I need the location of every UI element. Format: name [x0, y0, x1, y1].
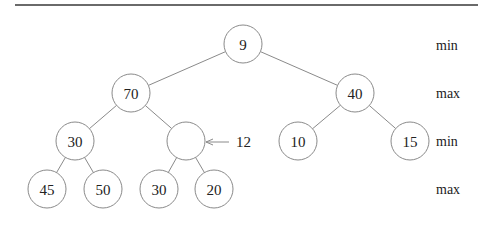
heap-node: 20: [195, 170, 233, 208]
node-value: 10: [291, 134, 306, 150]
tree-edge: [85, 157, 94, 172]
min-max-heap-diagram: 9704030101545503020 12 minmaxminmax: [0, 0, 490, 231]
tree-edge: [168, 158, 176, 173]
heap-node: 40: [336, 74, 374, 112]
tree-edge: [57, 157, 66, 172]
tree-edge: [148, 52, 225, 86]
node-value: 40: [348, 86, 363, 102]
heap-node: 10: [279, 122, 317, 160]
heap-node: 15: [391, 122, 429, 160]
heap-node: 50: [84, 170, 122, 208]
heap-node: 70: [112, 74, 150, 112]
node-value: 50: [96, 182, 111, 198]
insert-arrow: 12: [206, 134, 251, 150]
tree-edge: [369, 105, 395, 128]
tree-edges: [57, 52, 396, 173]
heap-node: 9: [224, 25, 262, 63]
heap-node: [167, 122, 205, 160]
level-labels: minmaxminmax: [436, 38, 460, 197]
node-value: 30: [152, 182, 167, 198]
node-circle: [167, 122, 205, 160]
node-value: 30: [68, 134, 83, 150]
tree-nodes: 9704030101545503020: [28, 25, 429, 208]
diagram-canvas: 9704030101545503020 12 minmaxminmax: [0, 0, 490, 231]
level-label: max: [436, 182, 460, 197]
level-label: max: [436, 86, 460, 101]
heap-node: 30: [140, 170, 178, 208]
node-value: 20: [207, 182, 222, 198]
node-value: 45: [40, 182, 55, 198]
tree-edge: [260, 52, 337, 86]
heap-node: 45: [28, 170, 66, 208]
insert-value-label: 12: [236, 134, 251, 150]
tree-edge: [89, 105, 116, 128]
heap-node: 30: [56, 122, 94, 160]
node-value: 70: [124, 86, 139, 102]
level-label: min: [436, 134, 458, 149]
tree-edge: [196, 157, 205, 172]
node-value: 15: [403, 134, 418, 150]
node-value: 9: [239, 37, 247, 53]
tree-edge: [313, 105, 341, 129]
level-label: min: [436, 38, 458, 53]
tree-edge: [145, 105, 171, 128]
